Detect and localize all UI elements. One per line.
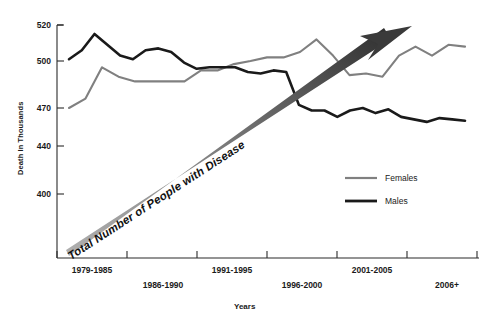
y-tick-label: 520 bbox=[21, 20, 51, 30]
x-axis-title: Years bbox=[234, 302, 255, 311]
series-line-males bbox=[69, 34, 465, 122]
y-tick-label: 440 bbox=[21, 141, 51, 151]
series-line-females bbox=[69, 39, 465, 108]
x-tick-label: 1996-2000 bbox=[272, 280, 332, 290]
legend-swatches bbox=[345, 178, 377, 201]
y-tick-label: 400 bbox=[21, 189, 51, 199]
y-axis-ticks bbox=[57, 25, 64, 194]
y-tick-label: 470 bbox=[21, 103, 51, 113]
plot-area bbox=[0, 0, 501, 326]
x-tick-label: 1979-1985 bbox=[62, 265, 122, 275]
y-tick-label: 500 bbox=[21, 56, 51, 66]
x-tick-label: 1991-1995 bbox=[202, 265, 262, 275]
x-tick-label: 1986-1990 bbox=[133, 280, 193, 290]
line-chart: Death In Thousands 520500470440400 1979-… bbox=[0, 0, 501, 326]
x-axis-ticks bbox=[57, 251, 477, 258]
x-tick-label: 2006+ bbox=[417, 280, 477, 290]
legend-item-males: Males bbox=[385, 196, 408, 206]
x-tick-label: 2001-2005 bbox=[342, 265, 402, 275]
legend-item-females: Females bbox=[385, 173, 418, 183]
